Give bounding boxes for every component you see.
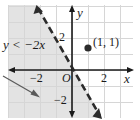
x-axis-label: x: [124, 72, 130, 85]
x-tick-label-pos2: 2: [101, 72, 107, 84]
y-tick-label-pos2: 2: [59, 31, 65, 43]
point-marker-1-1: [84, 44, 91, 51]
inequality-graph-figure: y < −2x (1, 1) y x O −2 2 2 −2: [0, 0, 140, 120]
point-label: (1, 1): [93, 36, 119, 48]
x-tick-label-neg2: −2: [30, 72, 43, 84]
coordinate-plane-svg: [0, 0, 140, 120]
inequality-label: y < −2x: [3, 38, 45, 51]
y-tick-label-neg2: −2: [54, 94, 67, 106]
y-axis-label: y: [77, 6, 83, 19]
origin-label: O: [62, 72, 71, 84]
